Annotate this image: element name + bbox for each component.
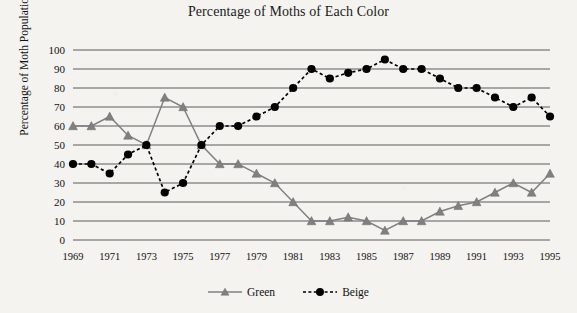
x-axis-tick-label: 1969: [56, 252, 90, 263]
legend-item-green[interactable]: Green: [208, 286, 275, 298]
data-point-green[interactable]: [105, 112, 114, 120]
plot-area: 1009080706050403020100196919711973197519…: [0, 0, 577, 313]
data-point-beige[interactable]: [179, 179, 187, 187]
data-point-beige[interactable]: [344, 69, 352, 77]
data-point-green[interactable]: [380, 226, 389, 234]
data-point-beige[interactable]: [381, 55, 389, 63]
data-point-green[interactable]: [252, 169, 261, 177]
y-axis-tick-label: 40: [37, 159, 65, 170]
x-axis-tick-label: 1995: [533, 252, 567, 263]
legend-swatch-beige-icon: [303, 286, 337, 298]
x-axis-tick-label: 1973: [129, 252, 163, 263]
data-point-beige[interactable]: [69, 160, 77, 168]
x-axis-tick-label: 1989: [423, 252, 457, 263]
data-point-beige[interactable]: [271, 103, 279, 111]
data-point-beige[interactable]: [417, 65, 425, 73]
x-axis-tick-label: 1985: [350, 252, 384, 263]
data-point-beige[interactable]: [289, 84, 297, 92]
legend-label-green: Green: [247, 286, 275, 298]
data-point-green[interactable]: [344, 213, 353, 221]
data-point-beige[interactable]: [307, 65, 315, 73]
y-axis-tick-label: 50: [37, 140, 65, 151]
data-point-beige[interactable]: [216, 122, 224, 130]
y-axis-tick-label: 100: [37, 45, 65, 56]
data-point-beige[interactable]: [546, 112, 554, 120]
data-point-beige[interactable]: [491, 93, 499, 101]
x-axis-tick-label: 1979: [239, 252, 273, 263]
data-point-beige[interactable]: [326, 74, 334, 82]
x-axis-tick-label: 1981: [276, 252, 310, 263]
y-axis-tick-label: 60: [37, 121, 65, 132]
legend-label-beige: Beige: [342, 286, 369, 298]
y-axis-tick-label: 70: [37, 102, 65, 113]
x-axis-tick-label: 1971: [93, 252, 127, 263]
data-point-green[interactable]: [160, 93, 169, 101]
data-point-beige[interactable]: [362, 65, 370, 73]
x-axis-tick-label: 1977: [203, 252, 237, 263]
data-point-green[interactable]: [546, 169, 555, 177]
data-point-beige[interactable]: [509, 103, 517, 111]
data-point-beige[interactable]: [106, 169, 114, 177]
data-point-beige[interactable]: [454, 84, 462, 92]
chart-svg: [0, 0, 577, 313]
chart-legend: Green Beige: [0, 286, 577, 298]
data-point-beige[interactable]: [142, 141, 150, 149]
x-axis-tick-label: 1987: [386, 252, 420, 263]
data-point-beige[interactable]: [87, 160, 95, 168]
y-axis-tick-label: 0: [37, 235, 65, 246]
data-point-beige[interactable]: [161, 188, 169, 196]
data-point-beige[interactable]: [124, 150, 132, 158]
y-axis-tick-label: 90: [37, 64, 65, 75]
x-axis-tick-label: 1991: [460, 252, 494, 263]
chart-page: Percentage of Moths of Each Color Percen…: [0, 0, 577, 313]
data-point-beige[interactable]: [399, 65, 407, 73]
data-point-beige[interactable]: [436, 74, 444, 82]
y-axis-tick-label: 80: [37, 83, 65, 94]
data-point-beige[interactable]: [197, 141, 205, 149]
x-axis-tick-label: 1975: [166, 252, 200, 263]
x-axis-tick-label: 1983: [313, 252, 347, 263]
legend-swatch-green-icon: [208, 286, 242, 298]
y-axis-tick-label: 30: [37, 178, 65, 189]
data-point-beige[interactable]: [234, 122, 242, 130]
data-point-green[interactable]: [491, 188, 500, 196]
y-axis-tick-label: 10: [37, 216, 65, 227]
data-point-beige[interactable]: [473, 84, 481, 92]
data-point-beige[interactable]: [528, 93, 536, 101]
legend-item-beige[interactable]: Beige: [303, 286, 369, 298]
x-axis-tick-label: 1993: [496, 252, 530, 263]
y-axis-tick-label: 20: [37, 197, 65, 208]
data-point-beige[interactable]: [252, 112, 260, 120]
